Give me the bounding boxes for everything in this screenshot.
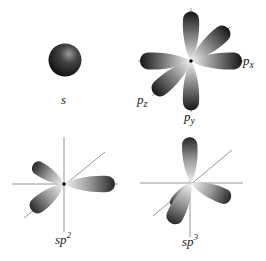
sp3-lobe-lower-right [188, 176, 233, 206]
sp3-lobe-up [182, 137, 199, 183]
py-label: py [183, 109, 196, 126]
orbital-diagram: s px pz py [0, 0, 266, 261]
sp2-orbitals-panel: sp2 [12, 137, 118, 247]
pz-label: pz [136, 92, 148, 109]
sp2-label: sp2 [55, 230, 72, 247]
sp2-lobe-right [64, 176, 115, 192]
nucleus-dot [189, 59, 193, 63]
sp3-orbitals-panel: sp3 [140, 137, 243, 249]
p-orbitals-panel: px pz py [136, 8, 255, 126]
sp2-nucleus-dot [62, 182, 66, 186]
s-label: s [61, 92, 66, 107]
s-orbital-sphere [49, 44, 82, 77]
s-orbital-panel: s [49, 44, 82, 108]
sp3-label: sp3 [182, 232, 199, 249]
px-label: px [242, 53, 255, 70]
